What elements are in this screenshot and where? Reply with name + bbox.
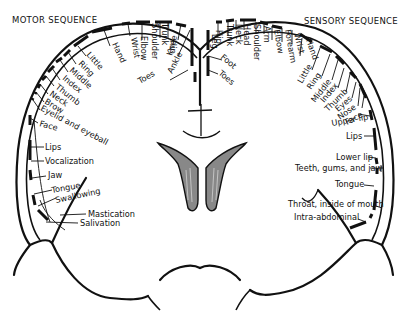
sensory-sequence-header: SENSORY SEQUENCE (304, 16, 398, 26)
motor-label-toes: Toes (135, 68, 156, 86)
sensory-label-lips: Lips (346, 131, 362, 141)
sensory-label-tongue: Tongue (334, 179, 364, 189)
sensory-label-shoulder: Shoulder (252, 24, 262, 61)
sensory-label-lower-lip: Lower lip (336, 152, 373, 162)
homunculus-diagram: MOTOR SEQUENCE SENSORY SEQUENCE Toes Ank… (0, 0, 408, 312)
sensory-label-toes: Toes (216, 67, 237, 87)
motor-label-vocalization: Vocalization (45, 156, 94, 166)
motor-label-salivation: Salivation (80, 218, 120, 228)
motor-label-jaw: Jaw (47, 170, 62, 180)
sensory-label-teeth-gums-jaw: Teeth, gums, and jaw (294, 163, 382, 173)
sensory-label-throat: Throat, inside of mouth (287, 199, 384, 209)
motor-sequence-header: MOTOR SEQUENCE (12, 15, 97, 25)
sensory-label-arm: Arm (262, 26, 272, 43)
sensory-label-hip: Hip (214, 30, 224, 44)
sensory-label-intra-abdominal: Intra-abdominal (294, 212, 359, 222)
sensory-label-trunk: Trunk (225, 23, 235, 47)
motor-label-trunk: Trunk (160, 22, 170, 46)
motor-label-lips: Lips (45, 142, 61, 152)
sensory-labels: Leg Foot Toes Hip Trunk Neck Head Should… (208, 20, 384, 222)
lateral-ventricles (158, 143, 246, 211)
midline-structure (183, 104, 220, 138)
sensory-label-head: Head (242, 24, 252, 45)
motor-label-hand: Hand (110, 41, 128, 65)
motor-labels: Toes Ankle Knee Hip Trunk Shoulder Elbow… (30, 22, 190, 228)
motor-label-shoulder: Shoulder (150, 23, 160, 60)
